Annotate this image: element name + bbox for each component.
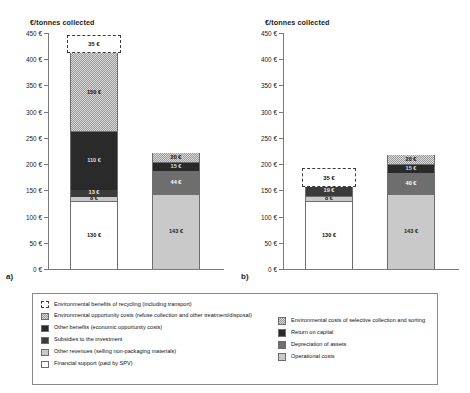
- stacked-bar[interactable]: 143 €44 €15 €20 €: [152, 153, 200, 269]
- bar-segment-label: 20 €: [406, 157, 417, 163]
- legend-item-label: Other benefits (economic opportunity cos…: [54, 325, 162, 331]
- y-tick-label: 350 €: [26, 82, 42, 89]
- legend-item: Depreciation of assets: [278, 341, 425, 350]
- y-tick: [279, 190, 283, 191]
- bar-segment: 8 €: [70, 197, 118, 201]
- bar-segment: 143 €: [387, 194, 435, 269]
- y-tick: [44, 164, 48, 165]
- bar-segment-label: 15 €: [171, 164, 182, 170]
- y-tick: [279, 243, 283, 244]
- bar-segment-label: 40 €: [406, 181, 417, 187]
- bar-segment: 44 €: [152, 171, 200, 194]
- legend-item-label: Environmental costs of selective collect…: [291, 318, 425, 324]
- legend-item: Environmental opportunity costs (refuse …: [41, 312, 266, 321]
- legend-swatch-icon: [41, 313, 49, 320]
- legend-swatch-icon: [41, 337, 49, 344]
- panel-letter-b: b): [241, 272, 249, 281]
- y-tick: [44, 33, 48, 34]
- legend-column-left: Environmental benefits of recycling (inc…: [41, 300, 266, 378]
- y-tick-label: 150 €: [26, 187, 42, 194]
- bar-segment-label: 44 €: [171, 180, 182, 186]
- stacked-bar[interactable]: 130 €8 €13 €110 €150 €: [70, 53, 118, 269]
- y-tick-label: 300 €: [26, 108, 42, 115]
- legend-item-label: Depreciation of assets: [291, 342, 346, 348]
- bar-segment-label: 8 €: [90, 197, 98, 201]
- axis-title-a: €/tonnes collected: [30, 18, 95, 27]
- y-tick: [44, 190, 48, 191]
- legend-swatch-icon: [278, 341, 286, 348]
- y-tick-label: 350 €: [261, 82, 277, 89]
- legend-item-label: Environmental opportunity costs (refuse …: [54, 313, 252, 319]
- bar-segment-label: 20 €: [171, 155, 182, 161]
- bar-segment: 19 €: [305, 187, 353, 197]
- legend-swatch-icon: [41, 349, 49, 356]
- legend-item: Subsidies to the investment: [41, 336, 266, 345]
- legend-item-label: Operational costs: [291, 354, 335, 360]
- legend-item-label: Other revenues (selling non-packaging ma…: [54, 349, 176, 355]
- legend-swatch-icon: [278, 353, 286, 360]
- legend-item-label: Subsidies to the investment: [54, 337, 122, 343]
- legend-item-label: Financial support (paid by SPV): [54, 361, 133, 367]
- y-tick-label: 200 €: [26, 161, 42, 168]
- bar-segment: 150 €: [70, 53, 118, 132]
- stacked-bar[interactable]: 130 €8 €19 €: [305, 187, 353, 269]
- y-tick-label: 300 €: [261, 108, 277, 115]
- legend-item: Environmental benefits of recycling (inc…: [41, 300, 266, 309]
- bar-segment-label: 130 €: [87, 233, 101, 239]
- bar-segment-label: 143 €: [404, 229, 418, 235]
- plot-area-b: 0 €50 €100 €150 €200 €250 €300 €350 €400…: [283, 33, 459, 270]
- dashed-benefit-label: 35 €: [323, 175, 334, 181]
- y-tick: [279, 138, 283, 139]
- y-tick: [44, 85, 48, 86]
- y-tick: [279, 112, 283, 113]
- y-tick-label: 50 €: [30, 239, 42, 246]
- legend-item-label: Environmental benefits of recycling (inc…: [54, 302, 192, 308]
- y-tick: [44, 243, 48, 244]
- x-axis-b: [283, 269, 459, 270]
- legend-item-label: Return on capital: [291, 330, 333, 336]
- bar-segment: 20 €: [387, 155, 435, 165]
- y-tick: [279, 59, 283, 60]
- y-tick: [44, 59, 48, 60]
- legend-item: Financial support (paid by SPV): [41, 360, 266, 369]
- bar-segment: 130 €: [305, 201, 353, 269]
- legend-item: Operational costs: [278, 353, 425, 362]
- legend-item: Other benefits (economic opportunity cos…: [41, 324, 266, 333]
- y-tick-label: 450 €: [261, 30, 277, 37]
- y-tick: [279, 269, 283, 270]
- bar-segment: 20 €: [152, 153, 200, 163]
- bar-segment: 13 €: [70, 190, 118, 197]
- legend-item: Return on capital: [278, 329, 425, 338]
- bar-segment: 15 €: [387, 165, 435, 173]
- y-tick: [44, 217, 48, 218]
- y-axis-b: [283, 33, 284, 270]
- y-tick-label: 0 €: [268, 266, 277, 273]
- panel-letter-a: a): [6, 272, 13, 281]
- bar-segment: 40 €: [387, 173, 435, 194]
- dashed-benefit-box: 35 €: [302, 168, 356, 186]
- legend-item: Other revenues (selling non-packaging ma…: [41, 348, 266, 357]
- legend-swatch-icon: [41, 325, 49, 332]
- y-tick-label: 150 €: [261, 187, 277, 194]
- chart-panel-a: €/tonnes collected 0 €50 €100 €150 €200 …: [0, 0, 235, 290]
- y-tick-label: 0 €: [33, 266, 42, 273]
- y-tick: [279, 33, 283, 34]
- chart-panel-b: €/tonnes collected 0 €50 €100 €150 €200 …: [235, 0, 470, 290]
- stacked-bar[interactable]: 143 €40 €15 €20 €: [387, 155, 435, 269]
- y-tick-label: 100 €: [26, 213, 42, 220]
- dashed-benefit-label: 35 €: [88, 41, 99, 47]
- y-tick-label: 50 €: [265, 239, 277, 246]
- bar-segment: 110 €: [70, 132, 118, 190]
- bar-segment: 15 €: [152, 163, 200, 171]
- y-tick: [279, 85, 283, 86]
- legend-box: Environmental benefits of recycling (inc…: [32, 293, 438, 385]
- legend-swatch-icon: [278, 317, 286, 324]
- y-tick-label: 400 €: [261, 56, 277, 63]
- y-tick-label: 400 €: [26, 56, 42, 63]
- y-tick-label: 450 €: [26, 30, 42, 37]
- y-tick-label: 250 €: [261, 134, 277, 141]
- legend-swatch-icon: [278, 329, 286, 336]
- legend-swatch-icon: [41, 361, 49, 368]
- x-axis-a: [48, 269, 224, 270]
- y-tick: [44, 112, 48, 113]
